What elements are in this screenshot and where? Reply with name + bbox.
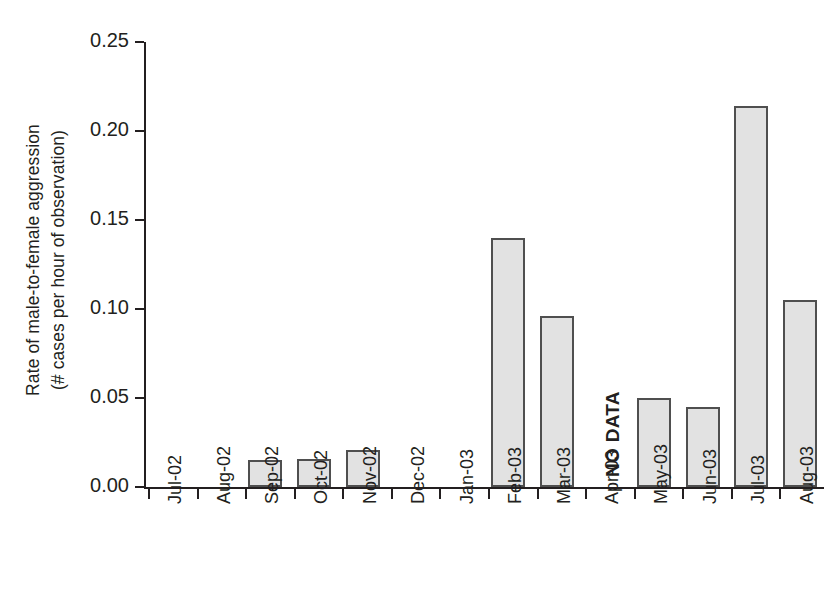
y-axis-title-line-1: Rate of male-to-female aggression <box>21 124 46 396</box>
x-axis-label-text: Aug-03 <box>798 446 816 504</box>
y-axis-tick: 0.00 <box>135 486 144 488</box>
x-axis-tick <box>439 489 441 499</box>
bar-chart-figure: Rate of male-to-female aggression (# cas… <box>0 0 840 596</box>
y-axis-tick-label: 0.25 <box>90 29 129 51</box>
x-axis-tick <box>682 489 684 499</box>
x-axis-tick <box>537 489 539 499</box>
y-axis-title-line-2: (# cases per hour of observation) <box>46 124 71 396</box>
y-axis-tick: 0.20 <box>135 130 144 132</box>
y-axis-tick-label: 0.20 <box>90 118 129 140</box>
x-axis-tick <box>148 489 150 499</box>
x-axis-label-text: Jul-02 <box>166 455 184 504</box>
x-axis-tick <box>294 489 296 499</box>
x-axis-tick <box>342 489 344 499</box>
y-axis-tick-label: 0.10 <box>90 296 129 318</box>
x-axis-label-text: Nov-02 <box>361 446 379 504</box>
y-axis-tick-label: 0.05 <box>90 385 129 407</box>
x-axis-tick <box>391 489 393 499</box>
x-axis-label-text: Sep-02 <box>263 446 281 504</box>
x-axis-label-text: Mar-03 <box>555 447 573 504</box>
x-axis-label-text: Aug-02 <box>215 446 233 504</box>
y-axis-line <box>144 42 146 487</box>
x-axis-tick <box>779 489 781 499</box>
x-axis-label-text: Jan-03 <box>458 449 476 504</box>
x-axis-tick <box>585 489 587 499</box>
y-axis-title: Rate of male-to-female aggression (# cas… <box>0 0 92 520</box>
y-axis-tick: 0.25 <box>135 41 144 43</box>
bar <box>734 106 768 487</box>
x-axis-label-text: Jul-03 <box>749 455 767 504</box>
y-axis-tick-label: 0.15 <box>90 207 129 229</box>
x-axis-label-text: May-03 <box>652 444 670 504</box>
x-axis-label-text: Oct-02 <box>312 450 330 504</box>
y-axis-tick: 0.15 <box>135 219 144 221</box>
x-axis-label-text: Jun-03 <box>701 449 719 504</box>
x-axis-tick <box>197 489 199 499</box>
x-axis-tick <box>488 489 490 499</box>
x-axis-tick <box>634 489 636 499</box>
plot-area: 0.000.050.100.150.200.25 NO DATA Jul-02A… <box>144 42 824 487</box>
y-axis-tick: 0.10 <box>135 308 144 310</box>
x-axis-tick <box>245 489 247 499</box>
y-axis-tick-label: 0.00 <box>90 474 129 496</box>
x-axis-label-text: Apr-03 <box>603 450 621 504</box>
x-axis-label-text: Dec-02 <box>409 446 427 504</box>
y-axis-tick: 0.05 <box>135 397 144 399</box>
x-axis-label-text: Feb-03 <box>506 447 524 504</box>
x-axis-tick <box>731 489 733 499</box>
